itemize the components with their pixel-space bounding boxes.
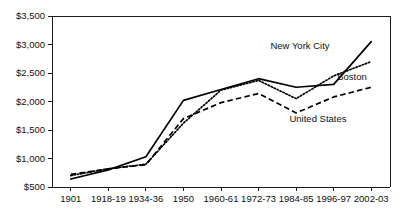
y-axis: $500$1,000$1,500$2,000$2,500$3,000$3,500 [16, 10, 52, 192]
y-tick-label: $3,000 [16, 39, 45, 50]
y-tick-label: $3,500 [16, 10, 45, 21]
y-tick-label: $2,000 [16, 96, 45, 107]
y-tick-group [48, 16, 52, 187]
line-chart: $500$1,000$1,500$2,000$2,500$3,000$3,500… [0, 0, 411, 218]
x-tick-group [71, 187, 371, 191]
series-line-boston [71, 42, 371, 179]
x-tick-label: 1984-85 [279, 193, 314, 204]
x-axis: 19011918-191934-3619501960-611972-731984… [52, 16, 390, 204]
y-tick-label: $1,000 [16, 153, 45, 164]
series-label-boston: Boston [337, 71, 367, 82]
x-tick-label: 1960-61 [204, 193, 239, 204]
x-tick-label: 1918-19 [91, 193, 126, 204]
y-tick-label: $2,500 [16, 67, 45, 78]
x-tick-label: 1972-73 [241, 193, 276, 204]
series-label-new-york-city: New York City [270, 40, 329, 51]
y-tick-label: $500 [24, 181, 45, 192]
series-group [71, 42, 371, 179]
chart-canvas: $500$1,000$1,500$2,000$2,500$3,000$3,500… [0, 0, 411, 218]
series-label-group: New York CityBostonUnited States [270, 40, 366, 124]
y-tick-label-group: $500$1,000$1,500$2,000$2,500$3,000$3,500 [16, 10, 45, 192]
y-tick-label: $1,500 [16, 124, 45, 135]
series-label-united-states: United States [289, 113, 346, 124]
x-tick-label: 1996-97 [316, 193, 351, 204]
x-tick-label: 1901 [60, 193, 81, 204]
x-tick-label: 2002-03 [354, 193, 389, 204]
series-line-united-states [71, 87, 371, 174]
x-tick-label: 1950 [173, 193, 194, 204]
x-tick-label: 1934-36 [128, 193, 163, 204]
x-tick-label-group: 19011918-191934-3619501960-611972-731984… [60, 193, 388, 204]
